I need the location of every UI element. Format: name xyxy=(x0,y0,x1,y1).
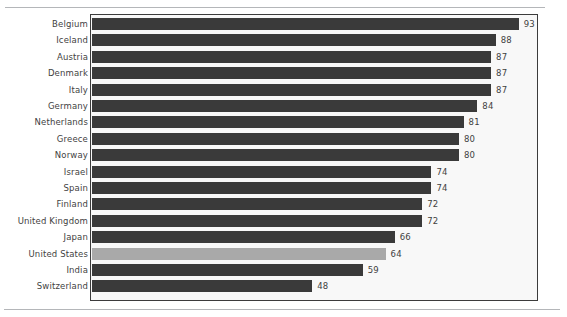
bar-row: Greece80 xyxy=(0,131,567,147)
bar-value-label: 80 xyxy=(464,131,475,147)
bar xyxy=(92,264,363,276)
bar xyxy=(92,67,491,79)
category-label: Netherlands xyxy=(35,114,88,130)
bar xyxy=(92,51,491,63)
bar-row: Norway80 xyxy=(0,147,567,163)
bar-row: United Kingdom72 xyxy=(0,213,567,229)
bar-row: Iceland88 xyxy=(0,32,567,48)
bar-value-label: 88 xyxy=(501,32,512,48)
category-label: United States xyxy=(28,246,88,262)
bar-row: Italy87 xyxy=(0,82,567,98)
bar xyxy=(92,149,459,161)
bar-value-label: 74 xyxy=(436,164,447,180)
category-label: Switzerland xyxy=(37,278,88,294)
bar-row: Netherlands81 xyxy=(0,114,567,130)
category-label: Israel xyxy=(64,164,88,180)
category-label: Greece xyxy=(57,131,88,147)
category-label: India xyxy=(66,262,88,278)
bar-value-label: 87 xyxy=(496,49,507,65)
category-label: Japan xyxy=(64,229,88,245)
bar xyxy=(92,34,496,46)
bar-value-label: 66 xyxy=(400,229,411,245)
bar-rows-container: Belgium93Iceland88Austria87Denmark87Ital… xyxy=(0,14,567,301)
bar-value-label: 93 xyxy=(524,16,535,32)
bar-value-label: 72 xyxy=(427,213,438,229)
bar-value-label: 59 xyxy=(368,262,379,278)
top-divider-rule xyxy=(5,7,545,8)
bar-row: Austria87 xyxy=(0,49,567,65)
bar xyxy=(92,231,395,243)
bar-row: Finland72 xyxy=(0,196,567,212)
bar-row: India59 xyxy=(0,262,567,278)
bar xyxy=(92,100,477,112)
bar-value-label: 87 xyxy=(496,82,507,98)
bar-row: Denmark87 xyxy=(0,65,567,81)
category-label: Austria xyxy=(57,49,88,65)
bar-value-label: 84 xyxy=(482,98,493,114)
bar-value-label: 72 xyxy=(427,196,438,212)
bar xyxy=(92,182,431,194)
category-label: Belgium xyxy=(52,16,88,32)
category-label: Italy xyxy=(69,82,88,98)
bar-row: Japan66 xyxy=(0,229,567,245)
category-label: Spain xyxy=(64,180,89,196)
bar-value-label: 64 xyxy=(391,246,402,262)
category-label: Finland xyxy=(57,196,88,212)
bar xyxy=(92,166,431,178)
category-label: Iceland xyxy=(56,32,88,48)
bar xyxy=(92,133,459,145)
bottom-divider-rule xyxy=(4,309,560,310)
bar-row: Israel74 xyxy=(0,164,567,180)
bar-value-label: 80 xyxy=(464,147,475,163)
bar xyxy=(92,280,312,292)
category-label: Norway xyxy=(55,147,88,163)
bar-row: Germany84 xyxy=(0,98,567,114)
bar-value-label: 81 xyxy=(469,114,480,130)
bar-row: Switzerland48 xyxy=(0,278,567,294)
category-label: Germany xyxy=(48,98,88,114)
bar-value-label: 74 xyxy=(436,180,447,196)
bar xyxy=(92,84,491,96)
bar xyxy=(92,18,519,30)
bar xyxy=(92,116,464,128)
bar-chart-figure: Belgium93Iceland88Austria87Denmark87Ital… xyxy=(0,0,567,317)
bar-row: Spain74 xyxy=(0,180,567,196)
bar xyxy=(92,215,422,227)
bar-value-label: 87 xyxy=(496,65,507,81)
bar xyxy=(92,248,386,260)
bar xyxy=(92,198,422,210)
category-label: United Kingdom xyxy=(18,213,88,229)
bar-row: United States64 xyxy=(0,246,567,262)
bar-value-label: 48 xyxy=(317,278,328,294)
bar-row: Belgium93 xyxy=(0,16,567,32)
category-label: Denmark xyxy=(48,65,88,81)
